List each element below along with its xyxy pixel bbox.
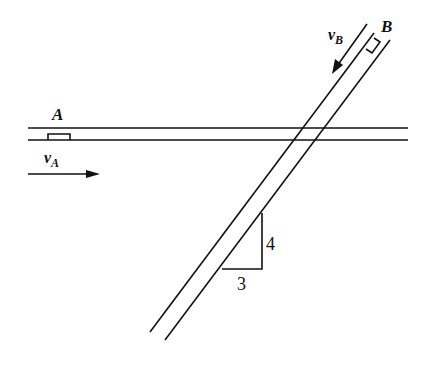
velocity-a-arrow: [28, 170, 100, 178]
horizontal-road: [28, 128, 408, 140]
slope-rise-label: 4: [266, 234, 275, 254]
slope-triangle: [222, 213, 262, 269]
velocity-b-label: vB: [328, 26, 343, 47]
diagonal-road: [150, 33, 390, 340]
car-a-label: A: [51, 105, 63, 124]
velocity-a-label: vA: [44, 149, 59, 170]
car-b-label: B: [380, 17, 392, 36]
diagram-canvas: A vA B vB 4 3: [0, 0, 430, 365]
slope-run-label: 3: [237, 274, 246, 294]
car-a: [48, 134, 70, 140]
